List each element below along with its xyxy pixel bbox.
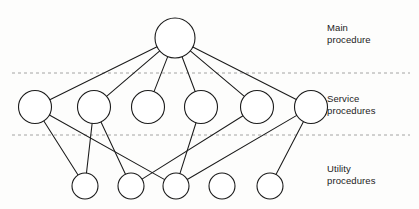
edge-service-6-utility-5 [276, 122, 303, 175]
band-label-service-procedures: Service procedures [327, 93, 376, 116]
edge-main-service-3 [154, 57, 168, 92]
node-service-5[interactable] [241, 91, 274, 124]
node-service-1[interactable] [19, 91, 52, 124]
node-main-1[interactable] [155, 18, 195, 58]
nodes-group [19, 18, 328, 199]
edge-service-2-utility-1 [86, 123, 92, 173]
node-service-3[interactable] [132, 91, 165, 124]
node-utility-4[interactable] [209, 173, 235, 199]
edge-service-2-utility-2 [101, 122, 125, 174]
node-utility-1[interactable] [72, 173, 98, 199]
edge-service-1-utility-1 [44, 121, 78, 175]
edge-service-6-utility-3 [187, 115, 297, 179]
node-utility-3[interactable] [163, 173, 189, 199]
band-label-main-procedure: Main procedure [327, 22, 371, 45]
node-utility-5[interactable] [257, 173, 283, 199]
edge-service-4-utility-3 [180, 123, 196, 174]
band-label-utility-procedures: Utility procedures [327, 163, 376, 186]
edge-main-service-5 [190, 51, 244, 96]
node-service-4[interactable] [185, 91, 218, 124]
procedure-hierarchy-diagram: Main procedure Service procedures Utilit… [0, 0, 419, 209]
node-utility-2[interactable] [118, 173, 144, 199]
node-service-2[interactable] [78, 91, 111, 124]
edge-main-service-4 [182, 57, 195, 92]
node-service-6[interactable] [295, 91, 328, 124]
edge-service-5-utility-2 [142, 116, 243, 179]
edge-main-service-2 [107, 51, 160, 96]
edge-service-1-utility-3 [49, 115, 164, 180]
